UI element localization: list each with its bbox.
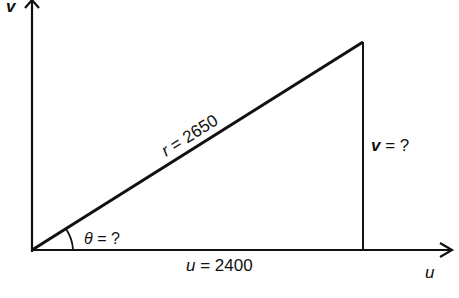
angle-eq: = ? [93, 230, 120, 247]
angle-var: θ [84, 230, 93, 247]
u-axis-label: u [425, 263, 435, 282]
angle-arc [66, 229, 73, 250]
hypotenuse-r [32, 42, 363, 250]
vertical-side-eq: = ? [380, 136, 409, 155]
horizontal-side-label: u = 2400 [186, 256, 253, 275]
right-triangle-diagram: v u r = 2650 v = ? θ = ? u = 2400 [0, 0, 459, 298]
horizontal-side-eq: = 2400 [195, 256, 252, 275]
vertical-side-label: v = ? [371, 136, 409, 155]
angle-label: θ = ? [84, 230, 120, 247]
v-axis-label: v [6, 0, 17, 16]
